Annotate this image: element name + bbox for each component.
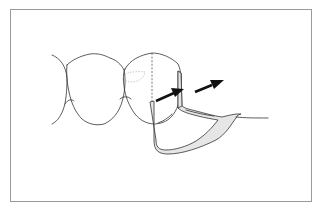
arrow-2 <box>195 80 224 92</box>
gingiva-left <box>65 100 74 104</box>
dental-diagram <box>0 0 323 211</box>
gingival-line-right <box>236 117 268 118</box>
left-tooth <box>67 54 125 125</box>
left-partial-tooth <box>52 55 67 124</box>
hidden-contour <box>124 72 145 82</box>
gingiva-middle <box>120 97 131 99</box>
